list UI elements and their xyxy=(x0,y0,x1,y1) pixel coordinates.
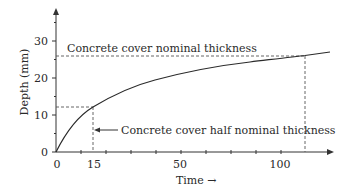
depth-curve xyxy=(56,52,330,152)
x-tick-label-15: 15 xyxy=(87,158,101,171)
half-thickness-annotation: Concrete cover half nominal thickness xyxy=(94,124,336,137)
x-tick-label-0: 0 xyxy=(54,158,61,171)
x-axis-title: Time → xyxy=(176,174,217,187)
arrow-left-icon xyxy=(94,128,100,133)
x-tick-label-50: 50 xyxy=(173,158,187,171)
x-axis: 0 15 50 100 Time → xyxy=(54,149,335,187)
x-axis-arrow-icon xyxy=(327,149,334,155)
y-axis-title: Depth (mm) xyxy=(18,49,31,116)
y-tick-label-0: 0 xyxy=(41,146,48,159)
depth-vs-time-chart: 0 10 20 30 Depth (mm) 0 15 50 100 Time →… xyxy=(0,0,347,195)
nominal-thickness-label: Concrete cover nominal thickness xyxy=(67,42,257,55)
y-tick-label-30: 30 xyxy=(34,35,48,48)
x-tick-label-100: 100 xyxy=(270,158,291,171)
y-axis-arrow-icon xyxy=(53,8,59,15)
y-axis: 0 10 20 30 Depth (mm) xyxy=(18,8,59,159)
y-tick-label-10: 10 xyxy=(34,109,48,122)
reference-lines xyxy=(56,56,305,152)
y-tick-label-20: 20 xyxy=(34,72,48,85)
half-thickness-label: Concrete cover half nominal thickness xyxy=(121,124,336,137)
